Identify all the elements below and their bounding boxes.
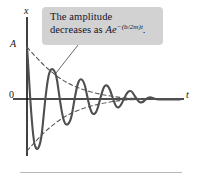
callout-leader-line <box>56 45 78 73</box>
formula-exponent: −(b/2m)t <box>117 22 143 30</box>
x-axis-label: t <box>186 90 189 100</box>
decay-formula: Ae−(b/2m)t. <box>106 24 146 35</box>
y-axis-label: x <box>24 6 28 16</box>
callout-line-2-prefix: decreases as <box>50 24 106 35</box>
origin-label: 0 <box>9 90 14 100</box>
callout-text: The amplitude decreases as Ae−(b/2m)t. <box>50 11 157 36</box>
amplitude-label: A <box>10 39 16 49</box>
callout-line-1: The amplitude <box>50 11 112 22</box>
lower-envelope-curve <box>27 99 180 151</box>
bottom-divider <box>20 172 182 173</box>
damped-oscillation-figure: The amplitude decreases as Ae−(b/2m)t. x… <box>0 0 199 179</box>
damped-oscillation-curve <box>27 47 180 149</box>
formula-suffix: . <box>143 24 146 35</box>
formula-base: Ae <box>106 24 117 35</box>
amplitude-decay-callout: The amplitude decreases as Ae−(b/2m)t. <box>42 7 163 45</box>
